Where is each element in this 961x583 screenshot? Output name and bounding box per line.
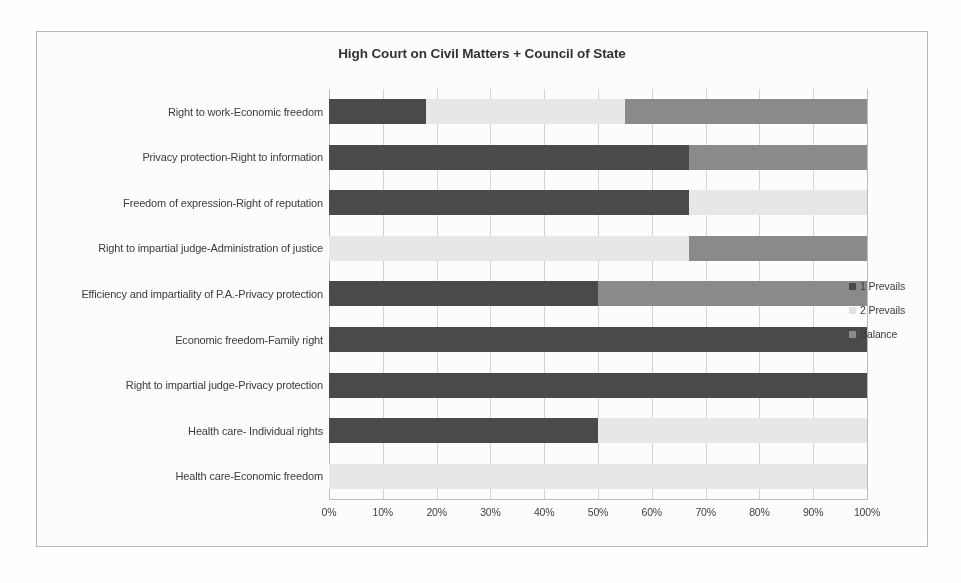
plot-area [329,89,867,499]
category-label: Efficiency and impartiality of P.A.-Priv… [55,288,323,300]
chart-title: High Court on Civil Matters + Council of… [37,46,927,61]
category-label: Health care-Economic freedom [55,470,323,482]
stacked-bar[interactable] [329,418,867,443]
category-label: Right to impartial judge-Privacy protect… [55,379,323,391]
bar-segment-2-prevails[interactable] [426,99,625,124]
bar-segment-1-prevails[interactable] [329,281,598,306]
x-tick-label: 0% [322,506,337,518]
stacked-bar[interactable] [329,99,867,124]
bar-segment-1-prevails[interactable] [329,145,689,170]
bar-segment-1-prevails[interactable] [329,418,598,443]
x-tick-label: 90% [803,506,823,518]
stacked-bar[interactable] [329,464,867,489]
bar-row[interactable] [329,271,867,317]
x-tick-label: 100% [854,506,880,518]
bar-row[interactable] [329,317,867,363]
legend-item[interactable]: 1 Prevails [849,274,941,298]
legend-label: Balance [860,328,897,340]
category-label: Right to impartial judge-Administration … [55,242,323,254]
legend-swatch-icon [849,307,856,314]
legend-label: 2 Prevails [860,304,905,316]
bar-row[interactable] [329,408,867,454]
bar-segment-balance[interactable] [689,145,867,170]
x-tick-label: 20% [426,506,446,518]
x-tick-label: 80% [749,506,769,518]
category-label: Economic freedom-Family right [55,334,323,346]
bar-segment-2-prevails[interactable] [329,236,689,261]
bar-row[interactable] [329,180,867,226]
bar-segment-2-prevails[interactable] [598,418,867,443]
bar-row[interactable] [329,453,867,499]
bar-segment-1-prevails[interactable] [329,327,867,352]
bar-segment-1-prevails[interactable] [329,99,426,124]
x-tick-label: 60% [642,506,662,518]
bar-row[interactable] [329,89,867,135]
category-label: Freedom of expression-Right of reputatio… [55,197,323,209]
x-tick-label: 30% [480,506,500,518]
legend-label: 1 Prevails [860,280,905,292]
x-tick-label: 10% [373,506,393,518]
x-tick-label: 40% [534,506,554,518]
bar-segment-1-prevails[interactable] [329,373,867,398]
bar-row[interactable] [329,362,867,408]
x-axis-line [329,499,868,500]
x-axis-tick-labels: 0%10%20%30%40%50%60%70%80%90%100% [329,506,867,524]
stacked-bar[interactable] [329,327,867,352]
bar-row[interactable] [329,135,867,181]
stacked-bar[interactable] [329,145,867,170]
legend-swatch-icon [849,331,856,338]
bar-row[interactable] [329,226,867,272]
legend-item[interactable]: 2 Prevails [849,298,941,322]
category-axis-labels: Right to work-Economic freedomPrivacy pr… [51,89,323,499]
legend-swatch-icon [849,283,856,290]
bar-segment-1-prevails[interactable] [329,190,689,215]
category-label: Health care- Individual rights [55,425,323,437]
legend-item[interactable]: Balance [849,322,941,346]
x-tick-label: 70% [695,506,715,518]
bar-segment-balance[interactable] [689,236,867,261]
stacked-bar[interactable] [329,190,867,215]
stacked-bar[interactable] [329,281,867,306]
bar-segment-balance[interactable] [598,281,867,306]
bar-segment-2-prevails[interactable] [329,464,867,489]
stacked-bar[interactable] [329,373,867,398]
category-label: Right to work-Economic freedom [55,106,323,118]
chart-frame: High Court on Civil Matters + Council of… [36,31,928,547]
category-label: Privacy protection-Right to information [55,151,323,163]
bar-segment-2-prevails[interactable] [689,190,867,215]
bar-segment-balance[interactable] [625,99,867,124]
chart-legend: 1 Prevails2 PrevailsBalance [849,274,941,346]
stacked-bar[interactable] [329,236,867,261]
x-tick-label: 50% [588,506,608,518]
